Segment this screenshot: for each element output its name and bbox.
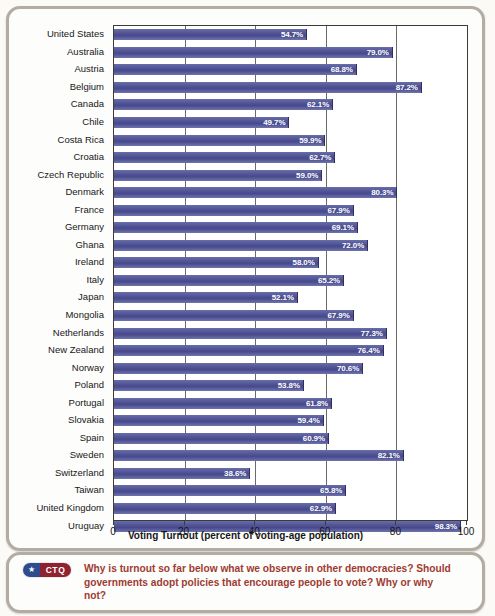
category-label: Norway — [72, 362, 104, 373]
bar-value-label: 59.0% — [296, 171, 321, 180]
x-tick — [325, 521, 326, 525]
category-label: Australia — [67, 46, 104, 57]
star-icon: ★ — [28, 566, 35, 574]
bar-row: 77.3% — [114, 324, 467, 342]
category-label-row: United Kingdom — [9, 499, 109, 517]
bar-row: 69.1% — [114, 219, 467, 237]
bar-value-label: 79.0% — [367, 48, 392, 57]
bar-value-label: 60.9% — [303, 434, 328, 443]
bar-row: 62.7% — [114, 149, 467, 167]
category-label: Belgium — [70, 81, 104, 92]
x-tick — [395, 521, 396, 525]
bar-row: 65.8% — [114, 482, 467, 500]
bar-value-label: 38.6% — [224, 469, 249, 478]
category-label: Costa Rica — [58, 134, 104, 145]
bar: 54.7% — [114, 29, 307, 40]
bar-row: 62.1% — [114, 96, 467, 114]
category-label: Italy — [87, 274, 104, 285]
bar-row: 67.9% — [114, 307, 467, 325]
ctq-badge: ★ CTQ — [23, 563, 71, 577]
bar-row: 62.9% — [114, 500, 467, 518]
bar-row: 38.6% — [114, 465, 467, 483]
bar: 65.8% — [114, 485, 346, 496]
category-label: United States — [47, 28, 104, 39]
bar-row: 53.8% — [114, 377, 467, 395]
plot-area: 54.7%79.0%68.8%87.2%62.1%49.7%59.9%62.7%… — [113, 25, 468, 521]
bar-row: 59.9% — [114, 131, 467, 149]
category-label-row: Japan — [9, 288, 109, 306]
bar: 87.2% — [114, 82, 422, 93]
category-label-row: Austria — [9, 60, 109, 78]
category-label: Poland — [74, 379, 104, 390]
category-axis-labels: United StatesAustraliaAustriaBelgiumCana… — [9, 25, 109, 521]
category-label: United Kingdom — [36, 502, 104, 513]
category-label-row: Ireland — [9, 253, 109, 271]
category-label: Sweden — [70, 449, 104, 460]
category-label: Taiwan — [74, 484, 104, 495]
bar: 77.3% — [114, 328, 387, 339]
bar-value-label: 49.7% — [263, 118, 288, 127]
category-label-row: Sweden — [9, 446, 109, 464]
bar: 60.9% — [114, 433, 329, 444]
bar: 70.6% — [114, 363, 363, 374]
bar-value-label: 70.6% — [337, 364, 362, 373]
bar: 59.0% — [114, 170, 322, 181]
bar: 80.3% — [114, 187, 397, 198]
category-label: Spain — [80, 432, 104, 443]
bar: 82.1% — [114, 450, 404, 461]
category-label: Ghana — [75, 239, 104, 250]
bar: 79.0% — [114, 47, 393, 58]
category-label: France — [74, 204, 104, 215]
x-tick — [184, 521, 185, 525]
bar-row: 82.1% — [114, 447, 467, 465]
bar: 53.8% — [114, 380, 304, 391]
bar-value-label: 67.9% — [327, 206, 352, 215]
bar: 59.4% — [114, 415, 324, 426]
bar-row: 49.7% — [114, 114, 467, 132]
category-label: Croatia — [73, 151, 104, 162]
bar: 62.7% — [114, 152, 335, 163]
bar-value-label: 59.9% — [299, 136, 324, 145]
bar-row: 72.0% — [114, 237, 467, 255]
bar: 61.8% — [114, 398, 332, 409]
bar-value-label: 52.1% — [272, 293, 297, 302]
bar-value-label: 53.8% — [278, 381, 303, 390]
bar-row: 67.9% — [114, 201, 467, 219]
category-label: New Zealand — [48, 344, 104, 355]
bar-value-label: 65.8% — [320, 486, 345, 495]
bar-value-label: 62.1% — [307, 100, 332, 109]
category-label: Switzerland — [55, 467, 104, 478]
category-label: Slovakia — [68, 414, 104, 425]
ctq-panel: ★ CTQ Why is turnout so far below what w… — [6, 552, 485, 613]
category-label-row: Canada — [9, 95, 109, 113]
category-label-row: Belgium — [9, 78, 109, 96]
category-label: Mongolia — [65, 309, 104, 320]
category-label: Chile — [82, 116, 104, 127]
category-label-row: United States — [9, 25, 109, 43]
bar-row: 68.8% — [114, 61, 467, 79]
category-label-row: Spain — [9, 429, 109, 447]
bar-value-label: 61.8% — [306, 399, 331, 408]
bar: 72.0% — [114, 240, 368, 251]
ctq-question-text: Why is turnout so far below what we obse… — [84, 562, 454, 603]
bar-series: 54.7%79.0%68.8%87.2%62.1%49.7%59.9%62.7%… — [114, 26, 467, 520]
category-label: Germany — [65, 221, 104, 232]
bar: 65.2% — [114, 275, 344, 286]
bar: 76.4% — [114, 345, 384, 356]
bar: 67.9% — [114, 310, 354, 321]
flag-field: ★ — [23, 563, 40, 577]
bar-value-label: 62.9% — [310, 504, 335, 513]
bar-value-label: 68.8% — [331, 65, 356, 74]
category-label-row: Australia — [9, 43, 109, 61]
bar: 62.1% — [114, 99, 333, 110]
ctq-content: ★ CTQ Why is turnout so far below what w… — [9, 555, 482, 610]
bar: 67.9% — [114, 205, 354, 216]
bar: 62.9% — [114, 503, 336, 514]
category-label-row: Denmark — [9, 183, 109, 201]
bar-row: 60.9% — [114, 430, 467, 448]
category-label-row: Norway — [9, 358, 109, 376]
category-label-row: Netherlands — [9, 323, 109, 341]
category-label-row: Croatia — [9, 148, 109, 166]
category-label-row: Mongolia — [9, 306, 109, 324]
bar-value-label: 87.2% — [396, 83, 421, 92]
